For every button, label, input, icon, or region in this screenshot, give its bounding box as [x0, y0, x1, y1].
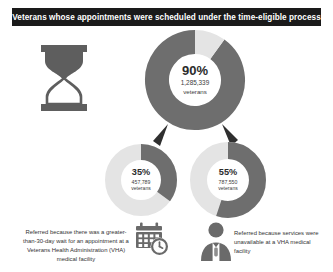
header-banner: Veterans whose appointments were schedul… [12, 8, 321, 26]
caption-left: Referred because there was a greater-tha… [22, 228, 130, 265]
donut-chart-right: 55% 787,550 veterans [188, 140, 268, 220]
donut-chart-main: 90% 1,285,339 veterans [143, 28, 247, 132]
page-title: Veterans whose appointments were schedul… [12, 13, 321, 22]
person-icon [199, 221, 233, 261]
hourglass-icon [38, 44, 90, 112]
donut-main-slice-dark [143, 28, 247, 132]
infographic-page: Veterans whose appointments were schedul… [0, 0, 333, 272]
calendar-clock-icon [134, 221, 170, 257]
donut-chart-left: 35% 457,789 veterans [103, 142, 179, 218]
caption-right: Referred because services were unavailab… [234, 229, 326, 256]
